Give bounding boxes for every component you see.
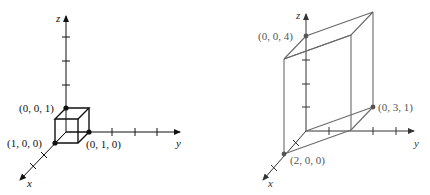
label-point-1-0-0: (1, 0, 0) [7,137,42,150]
point-0-3-1 [371,105,376,110]
point-1-0-0 [52,140,57,145]
right-x-axis-label: x [267,177,273,189]
point-2-0-0 [282,152,287,157]
diagram-canvas: (0, 0, 1) (1, 0, 0) (0, 1, 0) z y x [0,0,430,195]
left-figure-unit-cube: (0, 0, 1) (1, 0, 0) (0, 1, 0) z y x [7,12,181,189]
point-0-0-4 [304,34,309,39]
left-y-axis-label: y [175,137,181,149]
right-figure-parallelepiped: (0, 0, 4) (0, 3, 1) (2, 0, 0) z y x [258,9,419,189]
label-point-0-0-4: (0, 0, 4) [258,30,293,43]
label-point-0-3-1: (0, 3, 1) [378,101,413,114]
left-z-axis-label: z [55,12,61,24]
label-point-2-0-0: (2, 0, 0) [290,154,325,167]
label-point-0-1-0: (0, 1, 0) [86,138,121,151]
unit-cube-edges [55,108,89,143]
label-point-0-0-1: (0, 0, 1) [19,102,54,115]
point-0-0-1 [63,105,68,110]
point-0-1-0 [86,129,91,134]
right-z-axis-label: z [295,9,301,21]
right-y-axis-label: y [413,137,419,149]
left-axes [20,16,180,180]
left-x-axis-label: x [26,177,32,189]
